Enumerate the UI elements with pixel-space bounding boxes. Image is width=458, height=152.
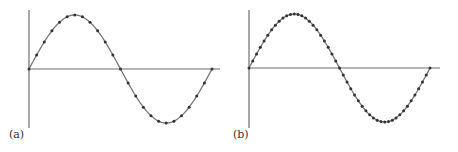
sample-point: [376, 119, 379, 122]
sample-point: [73, 14, 76, 17]
sample-point: [180, 114, 183, 117]
sample-point: [342, 74, 345, 77]
sample-point: [293, 13, 296, 16]
sample-point: [270, 28, 273, 31]
sample-point: [315, 28, 318, 31]
sample-point: [142, 106, 145, 109]
sample-point: [165, 122, 168, 125]
sample-point: [304, 17, 307, 20]
sample-point: [421, 80, 424, 83]
sample-point: [330, 53, 333, 56]
sample-point: [361, 105, 364, 108]
sample-point: [66, 15, 69, 18]
sample-point: [50, 29, 53, 32]
sample-point: [43, 41, 46, 44]
sample-point: [300, 14, 303, 17]
sine-plot-b: [229, 0, 458, 152]
sample-point: [410, 99, 413, 102]
sample-point: [274, 24, 277, 27]
sample-point: [119, 68, 122, 71]
sample-point: [172, 120, 175, 123]
sample-point: [285, 14, 288, 17]
sample-point: [425, 74, 428, 77]
sample-point: [353, 94, 356, 97]
sample-point: [96, 29, 99, 32]
sample-point: [312, 24, 315, 27]
sample-point: [391, 119, 394, 122]
sample-point: [387, 120, 390, 123]
sample-point: [402, 109, 405, 112]
sample-point: [327, 46, 330, 49]
sample-point: [188, 106, 191, 109]
sample-point: [127, 81, 130, 84]
sample-point: [81, 15, 84, 18]
sample-point: [334, 59, 337, 62]
sample-point: [157, 120, 160, 123]
sample-point: [417, 87, 420, 90]
sample-point: [35, 54, 38, 57]
sample-point: [395, 116, 398, 119]
panel-label-a: (a): [9, 128, 24, 141]
sample-point: [297, 13, 300, 16]
sample-point: [323, 40, 326, 43]
sample-point: [251, 59, 254, 62]
sample-point: [89, 21, 92, 24]
sample-point: [111, 54, 114, 57]
sample-point: [357, 99, 360, 102]
sample-point: [255, 53, 258, 56]
sample-point: [372, 116, 375, 119]
sample-point: [413, 94, 416, 97]
sample-point: [429, 67, 432, 70]
sample-point: [308, 20, 311, 23]
sine-plot-a: [0, 0, 229, 152]
sample-point: [281, 17, 284, 20]
sample-point: [134, 95, 137, 98]
sample-point: [338, 67, 341, 70]
sample-point: [346, 80, 349, 83]
sample-point: [28, 68, 31, 71]
sample-point: [150, 114, 153, 117]
sample-point: [259, 46, 262, 49]
sample-point: [349, 87, 352, 90]
sample-point: [278, 20, 281, 23]
sample-point: [211, 68, 214, 71]
panel-label-b: (b): [233, 128, 249, 141]
sample-point: [104, 41, 107, 44]
sample-point: [203, 81, 206, 84]
sample-point: [263, 40, 266, 43]
sample-point: [379, 120, 382, 123]
sample-point: [406, 105, 409, 108]
sample-point: [398, 113, 401, 116]
sample-point: [289, 13, 292, 16]
sample-point: [364, 109, 367, 112]
sample-point: [248, 67, 251, 70]
sample-point: [368, 113, 371, 116]
sample-point: [58, 21, 61, 24]
sample-point: [383, 121, 386, 124]
sample-point: [319, 34, 322, 37]
chart-panel-a: (a): [0, 0, 229, 152]
sample-point: [195, 95, 198, 98]
chart-panel-b: (b): [229, 0, 458, 152]
sample-point: [266, 34, 269, 37]
